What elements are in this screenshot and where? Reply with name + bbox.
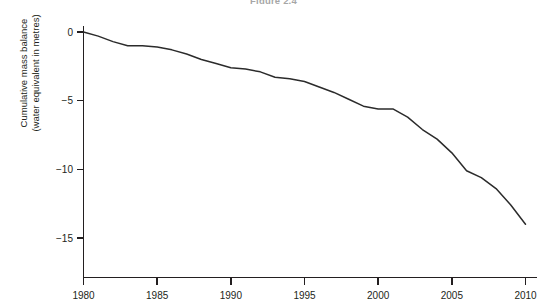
line-chart-plot: 0−5−10−15 1980198519901995200020052010 [0, 0, 547, 305]
x-tick-labels: 1980198519901995200020052010 [72, 290, 537, 301]
axis-lines [84, 26, 538, 278]
x-tick-label: 2010 [514, 290, 537, 301]
y-tick-label: −10 [56, 164, 73, 175]
y-tick-marks [77, 32, 84, 238]
y-tick-label: −15 [56, 233, 73, 244]
x-tick-label: 1990 [220, 290, 243, 301]
y-tick-labels: 0−5−10−15 [56, 27, 73, 244]
mass-balance-series-line [84, 32, 526, 224]
x-tick-label: 1985 [146, 290, 169, 301]
figure-container: Figure 2.4 Cumulative mass balance (wate… [0, 0, 547, 305]
x-tick-label: 1980 [72, 290, 95, 301]
x-tick-marks [84, 278, 526, 286]
y-tick-label: 0 [67, 27, 73, 38]
y-tick-label: −5 [62, 95, 74, 106]
x-tick-label: 1995 [293, 290, 316, 301]
x-tick-label: 2005 [441, 290, 464, 301]
x-tick-label: 2000 [367, 290, 390, 301]
